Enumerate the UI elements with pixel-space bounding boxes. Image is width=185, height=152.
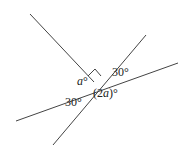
label-2a: (2a)° [93, 87, 118, 99]
ray-upper-left [30, 14, 94, 82]
right-angle-marker [88, 69, 101, 76]
diagram-lines [0, 0, 185, 152]
label-a: a° [77, 75, 88, 87]
label-30-bottom: 30° [65, 96, 82, 108]
label-30-top: 30° [112, 66, 129, 78]
angle-diagram: a° 30° (2a)° 30° [0, 0, 185, 152]
